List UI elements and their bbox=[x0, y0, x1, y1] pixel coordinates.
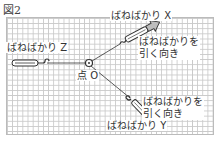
label-pull-direction-y: ばねばかりを 引く向き bbox=[142, 96, 204, 120]
label-spring-x: ばねばかり X bbox=[110, 10, 172, 21]
hook-icon bbox=[126, 96, 131, 100]
label-spring-y: ばねばかり Y bbox=[106, 120, 167, 131]
hook-icon bbox=[43, 59, 49, 63]
spring-z bbox=[12, 59, 86, 66]
point-o-ring bbox=[86, 60, 93, 67]
pull-direction-x-line2: 引く向き bbox=[139, 48, 199, 60]
pull-direction-x-line1: ばねばかりを bbox=[139, 36, 199, 48]
label-pull-direction-x: ばねばかりを 引く向き bbox=[138, 36, 200, 60]
label-spring-z: ばねばかり Z bbox=[6, 42, 68, 53]
pull-direction-y-line1: ばねばかりを bbox=[143, 96, 203, 108]
label-point-o: 点 O bbox=[76, 70, 99, 81]
hook-icon bbox=[120, 40, 126, 44]
pull-direction-y-line2: 引く向き bbox=[143, 108, 203, 120]
